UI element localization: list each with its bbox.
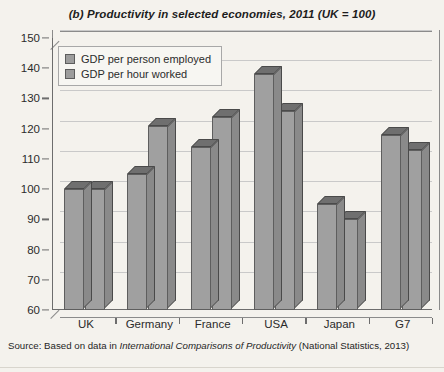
bar-side-face bbox=[401, 127, 409, 308]
x-tick-mark bbox=[115, 318, 116, 324]
bar-side-face bbox=[232, 109, 240, 308]
bar[interactable] bbox=[64, 189, 84, 310]
gridline bbox=[60, 151, 432, 152]
y-tick-mark bbox=[42, 219, 49, 220]
source-note: Source: Based on data in International C… bbox=[8, 340, 409, 351]
y-tick-mark bbox=[42, 249, 49, 250]
legend-item[interactable]: GDP per person employed bbox=[65, 51, 211, 66]
bar-side-face bbox=[211, 139, 219, 308]
y-tick-mark bbox=[42, 279, 49, 280]
gridline bbox=[60, 30, 432, 31]
x-tick-label: France bbox=[195, 318, 231, 330]
source-publication: International Comparisons of Productivit… bbox=[119, 340, 296, 351]
figure-panel: (b) Productivity in selected economies, … bbox=[0, 0, 444, 372]
bar[interactable] bbox=[127, 174, 147, 310]
x-tick-mark bbox=[305, 318, 306, 324]
x-tick-label: Germany bbox=[126, 318, 173, 330]
gridline bbox=[60, 211, 432, 212]
chart-title: (b) Productivity in selected economies, … bbox=[0, 8, 444, 20]
legend-label: GDP per hour worked bbox=[81, 68, 187, 80]
x-tick-label: USA bbox=[264, 318, 288, 330]
x-tick-mark bbox=[369, 318, 370, 324]
legend-label: GDP per person employed bbox=[81, 53, 211, 65]
x-tick-mark bbox=[179, 318, 180, 324]
x-tick-label: Japan bbox=[324, 318, 355, 330]
bar[interactable] bbox=[254, 74, 274, 310]
bar-side-face bbox=[337, 196, 345, 308]
bar-side-face bbox=[84, 181, 92, 308]
y-tick-label: 90 bbox=[6, 213, 40, 225]
y-tick-label: 80 bbox=[6, 244, 40, 256]
gridline bbox=[60, 121, 432, 122]
gridline bbox=[60, 272, 432, 273]
bar-side-face bbox=[168, 118, 176, 308]
y-tick-label: 60 bbox=[6, 304, 40, 316]
y-tick-label: 140 bbox=[6, 62, 40, 74]
bar-side-face bbox=[147, 166, 155, 308]
y-tick-label: 120 bbox=[6, 123, 40, 135]
y-tick-mark bbox=[42, 158, 49, 159]
y-tick-label: 110 bbox=[6, 153, 40, 165]
x-tick-mark bbox=[242, 318, 243, 324]
y-tick-mark bbox=[42, 189, 49, 190]
gridline bbox=[60, 181, 432, 182]
source-prefix: Source: Based on data in bbox=[8, 340, 119, 351]
bar-side-face bbox=[295, 103, 303, 308]
x-tick-label: G7 bbox=[395, 318, 410, 330]
bar-side-face bbox=[358, 211, 366, 308]
x-tick-label: UK bbox=[78, 318, 94, 330]
legend-item[interactable]: GDP per hour worked bbox=[65, 66, 211, 81]
bar[interactable] bbox=[381, 135, 401, 310]
page-edge-line bbox=[0, 367, 444, 368]
bar-side-face bbox=[422, 142, 430, 308]
y-tick-label: 100 bbox=[6, 183, 40, 195]
x-tick-mark bbox=[432, 318, 433, 324]
bar[interactable] bbox=[317, 204, 337, 310]
gridline bbox=[60, 90, 432, 91]
plot-depth-right bbox=[439, 30, 441, 310]
gridline bbox=[60, 242, 432, 243]
y-tick-mark bbox=[42, 128, 49, 129]
legend-swatch-icon bbox=[65, 69, 75, 79]
y-tick-mark bbox=[42, 98, 49, 99]
bar-side-face bbox=[105, 181, 113, 308]
y-tick-label: 130 bbox=[6, 92, 40, 104]
y-tick-label: 70 bbox=[6, 274, 40, 286]
bar[interactable] bbox=[191, 147, 211, 310]
y-tick-label: 150 bbox=[6, 32, 40, 44]
legend: GDP per person employed GDP per hour wor… bbox=[58, 46, 222, 86]
legend-swatch-icon bbox=[65, 54, 75, 64]
y-tick-mark bbox=[42, 68, 49, 69]
source-suffix: (National Statistics, 2013) bbox=[296, 340, 409, 351]
bar-side-face bbox=[274, 66, 282, 308]
